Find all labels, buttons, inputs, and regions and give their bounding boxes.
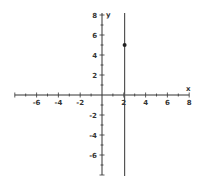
y-tick-label: -4 [89,132,97,140]
x-axis-label: x [186,85,191,93]
y-tick-label: 8 [92,12,97,20]
axes [15,13,189,175]
x-tick-label: 8 [187,99,192,107]
x-tick-label: 6 [165,99,170,107]
x-tick-label: 2 [121,99,126,107]
tick-labels: -6-4-224688642-2-4-6xy [33,11,192,160]
y-axis-label: y [106,11,111,19]
x-tick-label: -2 [76,99,84,107]
x-tick-label: -6 [33,99,41,107]
y-tick-label: 6 [92,32,97,40]
y-tick-label: -2 [89,112,97,120]
x-tick-label: -4 [55,99,63,107]
y-tick-label: 4 [92,52,97,60]
y-tick-label: -6 [89,152,97,160]
coordinate-plane: -6-4-224688642-2-4-6xy [0,0,204,186]
data-point [123,43,127,47]
y-tick-label: 2 [92,72,97,80]
x-tick-label: 4 [143,99,148,107]
